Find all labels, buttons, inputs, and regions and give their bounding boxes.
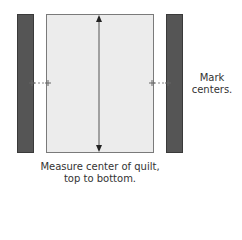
caption-line2: top to bottom. xyxy=(30,173,170,185)
mark-centers-line1: Mark xyxy=(190,72,234,84)
caption-line1: Measure center of quilt, xyxy=(30,161,170,173)
mark-centers-label: Mark centers. xyxy=(190,72,234,96)
mark-centers-line2: centers. xyxy=(190,84,234,96)
measure-caption: Measure center of quilt, top to bottom. xyxy=(30,161,170,185)
